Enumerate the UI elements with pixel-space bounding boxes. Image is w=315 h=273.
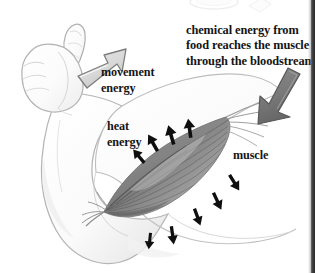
label-chemical-energy: chemical energy from food reaches the mu… — [186, 23, 315, 69]
label-heat-energy: heat energy — [107, 118, 142, 150]
label-muscle: muscle — [233, 148, 268, 162]
fist-hand — [22, 24, 85, 115]
diagram-canvas: chemical energy from food reaches the mu… — [0, 0, 315, 273]
top-page-fragment — [190, 0, 271, 12]
page-right-edge — [311, 0, 315, 273]
label-movement-energy: movement energy — [101, 64, 154, 96]
